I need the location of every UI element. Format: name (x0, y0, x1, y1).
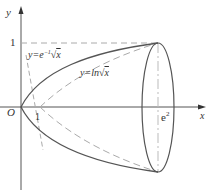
axes (0, 6, 206, 190)
ln-curve-lower (40, 107, 158, 172)
reflection-line (26, 55, 43, 150)
y-axis-label: y (5, 6, 11, 18)
curve-label-sqrt-root: x (55, 49, 61, 60)
x-axis-arrow-icon (198, 105, 206, 110)
curve-label-sqrt-exp: −1 (44, 49, 51, 55)
x-tick-e2: e2 (161, 110, 170, 123)
x-axis-label: x (199, 110, 205, 121)
curve-label-ln: y=ln√x (79, 67, 109, 78)
y-axis-arrow-icon (19, 6, 24, 14)
e2-exponent: 2 (166, 110, 170, 118)
solid-of-revolution-diagram: y x O 1 1 e2 y=e−1√x y=ln√x (0, 0, 211, 194)
curve-label-ln-root: x (103, 67, 109, 78)
curve-label-ln-prefix: y=ln (79, 67, 99, 78)
y-tick-one: 1 (10, 36, 16, 48)
curve-label-sqrt-prefix: y=e (27, 49, 44, 60)
curve-label-sqrt: y=e−1√x (27, 49, 61, 60)
x-tick-one: 1 (35, 111, 40, 122)
origin-label: O (7, 106, 15, 118)
